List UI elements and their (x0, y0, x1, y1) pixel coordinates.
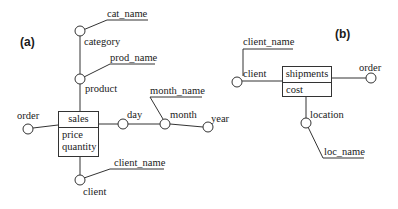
attr-location: location (310, 109, 344, 121)
attr-month: month (170, 109, 197, 121)
category-node (75, 26, 85, 36)
client-node (75, 175, 85, 185)
product-node (75, 74, 85, 84)
attr-client-name: client_name (114, 157, 165, 169)
attr-cat-name: cat_name (107, 8, 147, 20)
attr-order-b: order (359, 62, 381, 74)
measure-quantity: quantity (62, 141, 95, 153)
measure-price: price (62, 129, 95, 141)
fact-shipments: shipments cost (282, 66, 332, 97)
panel-label-b: (b) (335, 27, 350, 41)
attr-client-b: client (243, 68, 266, 80)
order-node (23, 124, 33, 134)
panel-label-a: (a) (20, 35, 35, 49)
attr-year: year (211, 113, 229, 125)
attr-prod-name: prod_name (110, 52, 157, 64)
fact-shipments-name: shipments (283, 67, 331, 83)
attr-product: product (85, 83, 117, 95)
attr-category: category (84, 36, 120, 48)
dfm-diagram-canvas: (a) cat_name category prod_name product … (0, 0, 398, 209)
attr-month-name: month_name (150, 85, 205, 97)
attr-loc-name: loc_name (324, 146, 365, 158)
attr-order: order (17, 110, 39, 122)
fact-shipments-measures: cost (283, 83, 331, 97)
month-node (160, 119, 170, 129)
attr-client: client (83, 186, 106, 198)
order-node-b (366, 73, 376, 83)
measure-cost: cost (286, 84, 328, 96)
fact-sales: sales price quantity (58, 111, 99, 157)
attr-client-name-b: client_name (243, 36, 294, 48)
fact-sales-measures: price quantity (59, 128, 98, 154)
fact-sales-name: sales (59, 112, 98, 128)
client-node-b (232, 77, 242, 87)
attr-day: day (127, 109, 142, 121)
